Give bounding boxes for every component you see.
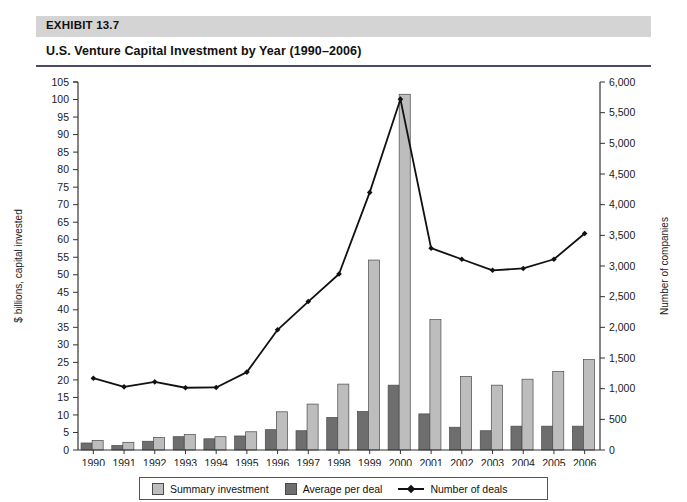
legend-item-summary-investment: Summary investment xyxy=(152,483,269,495)
bar-summary-investment-2005 xyxy=(553,371,564,450)
x-tick-label-1999: 1999 xyxy=(358,457,382,466)
x-tick-label-1991: 1991 xyxy=(112,457,136,466)
x-tick-label-2001: 2001 xyxy=(419,457,443,466)
x-tick-label-1990: 1990 xyxy=(82,457,106,466)
left-tick-label: 30 xyxy=(57,338,69,350)
bar-summary-investment-2006 xyxy=(583,360,594,450)
bar-summary-investment-1996 xyxy=(276,412,287,450)
chart-container: 0510152025303540455055606570758085909510… xyxy=(0,66,687,466)
bar-summary-investment-1995 xyxy=(246,432,257,450)
line-marker-1999 xyxy=(367,190,373,196)
line-number-of-deals xyxy=(93,99,584,388)
right-tick-label: 4,000 xyxy=(609,198,635,210)
legend-swatch-icon-average-per-deal xyxy=(285,483,297,495)
venture-capital-chart: 0510152025303540455055606570758085909510… xyxy=(0,66,687,466)
bar-series-group xyxy=(81,94,594,450)
right-tick-label: 2,000 xyxy=(609,321,635,333)
bar-summary-investment-1991 xyxy=(123,442,134,450)
x-tick-label-2003: 2003 xyxy=(481,457,505,466)
right-tick-label: 1,000 xyxy=(609,382,635,394)
left-tick-label: 65 xyxy=(57,216,69,228)
bar-summary-investment-2002 xyxy=(461,376,472,450)
right-tick-label: 5,000 xyxy=(609,137,635,149)
bar-summary-investment-1994 xyxy=(215,437,226,450)
line-marker-2002 xyxy=(459,256,465,262)
left-tick-label: 95 xyxy=(57,111,69,123)
exhibit-page: EXHIBIT 13.7 U.S. Venture Capital Invest… xyxy=(0,0,687,502)
line-marker-2003 xyxy=(490,267,496,273)
left-tick-label: 25 xyxy=(57,356,69,368)
left-tick-label: 45 xyxy=(57,286,69,298)
bar-summary-investment-2003 xyxy=(491,385,502,450)
left-tick-label: 70 xyxy=(57,198,69,210)
left-tick-label: 5 xyxy=(63,426,69,438)
line-marker-1990 xyxy=(91,375,97,381)
bar-average-per-deal-1996 xyxy=(265,430,276,450)
left-tick-label: 85 xyxy=(57,146,69,158)
right-tick-label: 5,500 xyxy=(609,106,635,118)
left-tick-label: 0 xyxy=(63,444,69,456)
right-tick-label: 0 xyxy=(609,444,615,456)
x-tick-label-1993: 1993 xyxy=(174,457,198,466)
legend-label-summary-investment: Summary investment xyxy=(170,483,269,495)
right-axis-title: Number of companies xyxy=(659,217,670,315)
bar-summary-investment-1998 xyxy=(338,384,349,450)
left-tick-label: 100 xyxy=(51,93,69,105)
left-axis-title: $ billions, capital invested xyxy=(13,209,24,322)
line-marker-1992 xyxy=(152,379,158,385)
right-axis-ticks: 05001,0001,5002,0002,5003,0003,5004,0004… xyxy=(600,76,635,456)
left-tick-label: 15 xyxy=(57,391,69,403)
bar-average-per-deal-1998 xyxy=(327,417,338,450)
left-tick-label: 40 xyxy=(57,303,69,315)
x-tick-label-1995: 1995 xyxy=(235,457,259,466)
bar-summary-investment-1990 xyxy=(92,441,103,450)
bar-summary-investment-2004 xyxy=(522,379,533,450)
left-tick-label: 55 xyxy=(57,251,69,263)
legend-swatch-icon-summary-investment xyxy=(152,483,164,495)
x-tick-label-1998: 1998 xyxy=(327,457,351,466)
legend-label-average-per-deal: Average per deal xyxy=(303,483,383,495)
right-tick-label: 6,000 xyxy=(609,76,635,88)
right-tick-label: 3,000 xyxy=(609,260,635,272)
right-tick-label: 4,500 xyxy=(609,168,635,180)
right-tick-label: 500 xyxy=(609,413,627,425)
x-tick-label-1997: 1997 xyxy=(297,457,321,466)
bar-summary-investment-1992 xyxy=(154,437,165,450)
legend-line-marker-icon-number-of-deals xyxy=(398,484,424,494)
left-tick-label: 105 xyxy=(51,76,69,88)
bar-average-per-deal-2004 xyxy=(511,426,522,450)
left-tick-label: 10 xyxy=(57,409,69,421)
bar-summary-investment-1993 xyxy=(184,435,195,450)
left-tick-label: 80 xyxy=(57,163,69,175)
left-tick-label: 50 xyxy=(57,268,69,280)
bar-average-per-deal-1997 xyxy=(296,431,307,450)
left-tick-label: 75 xyxy=(57,181,69,193)
bar-summary-investment-1999 xyxy=(368,260,379,450)
bar-average-per-deal-2003 xyxy=(480,431,491,450)
exhibit-label: EXHIBIT 13.7 xyxy=(46,19,119,31)
bar-average-per-deal-2001 xyxy=(419,414,430,450)
right-tick-label: 3,500 xyxy=(609,229,635,241)
x-tick-label-2004: 2004 xyxy=(512,457,536,466)
line-marker-2001 xyxy=(428,245,434,251)
exhibit-band xyxy=(36,16,651,37)
chart-legend: Summary investment Average per deal Numb… xyxy=(139,477,548,500)
bar-average-per-deal-1993 xyxy=(173,437,184,450)
x-tick-label-2005: 2005 xyxy=(542,457,566,466)
x-tick-label-2002: 2002 xyxy=(450,457,474,466)
bar-summary-investment-2001 xyxy=(430,320,441,450)
left-tick-label: 90 xyxy=(57,128,69,140)
right-tick-label: 1,500 xyxy=(609,352,635,364)
left-axis-ticks: 0510152025303540455055606570758085909510… xyxy=(51,76,78,456)
bar-summary-investment-1997 xyxy=(307,404,318,450)
x-tick-label-2000: 2000 xyxy=(389,457,413,466)
bar-average-per-deal-2000 xyxy=(388,385,399,450)
bar-average-per-deal-2006 xyxy=(572,426,583,450)
left-tick-label: 35 xyxy=(57,321,69,333)
left-tick-label: 60 xyxy=(57,233,69,245)
line-marker-2004 xyxy=(520,266,526,272)
bar-average-per-deal-1990 xyxy=(81,443,92,450)
x-tick-label-1994: 1994 xyxy=(204,457,228,466)
x-axis-ticks: 1990199119921993199419951996199719981999… xyxy=(82,450,597,466)
bar-average-per-deal-1992 xyxy=(142,441,153,450)
